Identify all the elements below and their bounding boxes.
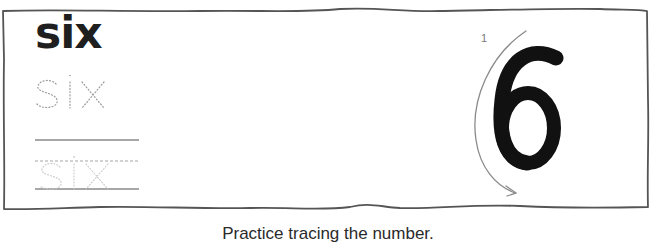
instruction-caption: Practice tracing the number. (0, 224, 656, 244)
number-word-bold: six (35, 8, 102, 58)
stroke-order-number: 1 (481, 32, 487, 44)
